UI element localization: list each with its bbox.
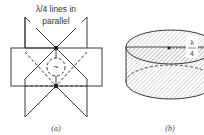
feed-point-bottom — [54, 84, 58, 88]
feed-point-top — [54, 46, 58, 50]
panel-b: λ 4 — [126, 30, 204, 99]
radius-label-numerator: λ — [190, 39, 194, 46]
lower-left-diagonal — [25, 86, 56, 117]
cross-diagonal-2 — [25, 48, 56, 79]
annotation-line-2: parallel — [42, 16, 70, 26]
ac-source-symbol: ~ — [53, 62, 58, 72]
lower-right-diagonal — [56, 86, 87, 117]
dashed-diagonal-right — [56, 52, 87, 86]
annotation-line-1: λ/4 lines in — [36, 4, 76, 14]
cross-diagonal-1 — [56, 48, 87, 79]
figure-canvas: λ/4 lines in parallel ~ (a) λ 4 (b) — [0, 0, 204, 135]
caption-b: (b) — [165, 124, 175, 133]
caption-a: (a) — [51, 124, 61, 133]
radius-label-denominator: 4 — [190, 50, 194, 57]
dashed-diagonal-left — [25, 52, 56, 86]
